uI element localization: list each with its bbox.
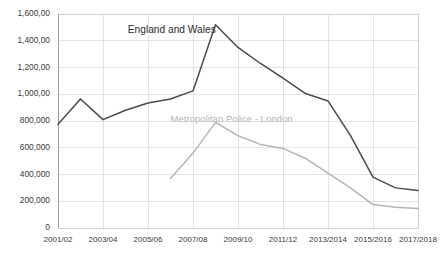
x-axis-tick-label: 2007/08 <box>179 235 208 244</box>
y-axis-tick-label: 0 <box>45 222 50 232</box>
series-label-metropolitan-police-london: Metropolitan Police - London <box>171 113 293 124</box>
x-axis-tick-label: 2005/06 <box>134 235 163 244</box>
y-axis-tick-label: 1,000,00 <box>17 88 50 98</box>
y-axis-tick-label: 400,000 <box>20 169 51 179</box>
y-axis-tick-label: 1,400,00 <box>17 35 50 45</box>
x-axis-tick-label: 2003/04 <box>89 235 118 244</box>
y-axis-tick-label: 200,000 <box>20 195 51 205</box>
x-axis-tick-label: 2001/02 <box>44 235 73 244</box>
y-axis-tick-label: 800,000 <box>20 115 51 125</box>
x-axis-tick-label: 2009/10 <box>224 235 253 244</box>
x-axis-tick-labels: 2001/022003/042005/062007/082009/102011/… <box>44 235 438 244</box>
series-line-metropolitan-police-london <box>171 122 419 208</box>
line-chart: 0200,000400,000600,000800,0001,000,001,2… <box>0 0 444 266</box>
x-axis-tick-label: 2011/12 <box>269 235 298 244</box>
series-label-england-and-wales: England and Wales <box>128 24 216 35</box>
y-axis-tick-label: 1,200,00 <box>17 62 50 72</box>
x-axis-tick-label: 2015/2016 <box>354 235 392 244</box>
y-axis-tick-label: 600,000 <box>20 142 51 152</box>
chart-container: 0200,000400,000600,000800,0001,000,001,2… <box>0 0 444 266</box>
x-axis-tick-label: 2017/2018 <box>399 235 437 244</box>
x-axis-tick-label: 2013/2014 <box>309 235 347 244</box>
y-axis-tick-label: 1,600,00 <box>17 8 50 18</box>
y-axis-tick-labels: 0200,000400,000600,000800,0001,000,001,2… <box>17 8 50 232</box>
